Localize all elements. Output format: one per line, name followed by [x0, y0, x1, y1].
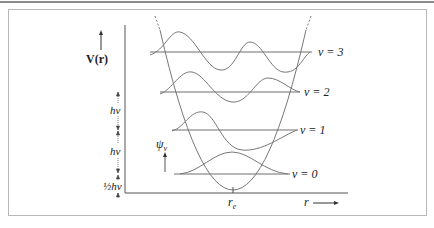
harmonic-oscillator-diagram: v = 3 v = 2 v = 1 v = 0 V(r) hν hν ½hν ψ…: [0, 0, 434, 228]
level-label-v3: v = 3: [318, 45, 343, 59]
energy-levels: [150, 52, 312, 174]
potential-dashed-left: [155, 16, 160, 30]
equilibrium-label: re: [228, 195, 237, 211]
arrow-up-icon: [117, 193, 120, 197]
arrow-up-icon: [117, 131, 120, 135]
y-axis-label: V(r): [86, 52, 108, 66]
wavefunction-v0: [180, 152, 288, 174]
y-axis-arrowhead-icon: [99, 30, 103, 35]
x-axis-arrowhead-icon: [334, 201, 339, 205]
wavefunction-label: ψv: [156, 137, 167, 153]
level-label-v1: v = 1: [300, 123, 325, 137]
arrow-up-icon: [117, 175, 120, 179]
wavefunction-v1: [172, 112, 297, 150]
wavefunction-v2: [160, 72, 300, 102]
potential-dashed-right: [306, 16, 311, 30]
arrow-up-icon: [117, 92, 120, 96]
x-axis-label: r: [304, 195, 309, 209]
spacing-label-1: hν: [110, 104, 121, 116]
arrow-down-icon: [117, 169, 120, 173]
spacing-label-2: hν: [110, 145, 121, 157]
spacing-label-3: ½hν: [103, 180, 122, 192]
potential-curve: [160, 30, 306, 190]
level-label-v2: v = 2: [304, 85, 329, 99]
level-label-v0: v = 0: [292, 167, 317, 181]
wavefunctions: [150, 32, 310, 174]
arrow-down-icon: [117, 126, 120, 130]
